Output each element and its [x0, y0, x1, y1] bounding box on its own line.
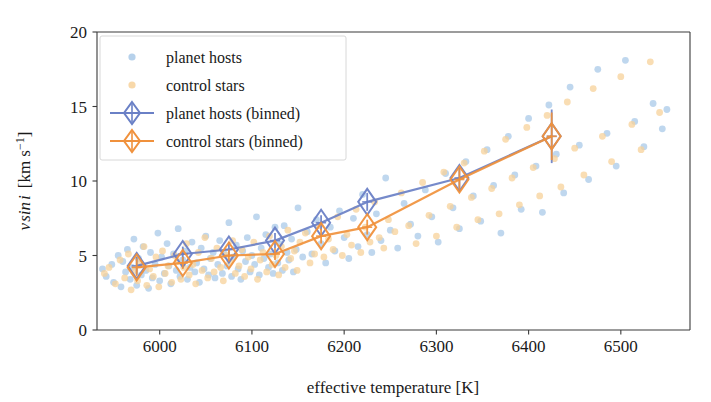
scatter-point: [285, 227, 292, 234]
scatter-point: [192, 280, 199, 287]
scatter-point: [498, 230, 505, 237]
scatter-point: [106, 264, 113, 271]
scatter-point: [617, 73, 624, 80]
scatter-point: [217, 264, 224, 271]
scatter-point: [581, 172, 588, 179]
scatter-point: [419, 179, 426, 186]
scatter-point: [143, 282, 150, 289]
scatter-point: [373, 210, 380, 217]
scatter-point: [435, 239, 442, 246]
scatter-point: [219, 270, 226, 277]
scatter-point: [461, 160, 468, 167]
scatter-point: [413, 240, 420, 247]
scatter-point: [236, 263, 243, 270]
scatter-point: [121, 275, 128, 282]
scatter-point: [241, 273, 248, 280]
scatter-point: [426, 212, 433, 219]
scatter-point: [275, 272, 282, 279]
scatter-point: [629, 121, 636, 128]
y-axis-unit-close: ]: [15, 132, 34, 138]
scatter-point: [311, 251, 318, 258]
scatter-point: [558, 184, 565, 191]
scatter-point: [355, 243, 362, 250]
y-tick-label: 5: [79, 247, 88, 266]
scatter-point: [350, 215, 357, 222]
scatter-point: [368, 249, 375, 256]
scatter-point: [496, 210, 503, 217]
scatter-point: [147, 249, 154, 256]
scatter-point: [101, 270, 108, 277]
scatter-point: [415, 233, 422, 240]
scatter-point: [248, 266, 255, 273]
scatter-point: [405, 222, 412, 229]
scatter-point: [117, 257, 124, 264]
legend-label: control stars: [166, 77, 245, 94]
y-tick-label: 20: [70, 23, 87, 42]
x-tick-label: 6000: [143, 337, 177, 356]
scatter-point: [287, 255, 294, 262]
scatter-point: [159, 248, 166, 255]
scatter-point: [226, 219, 233, 226]
scatter-point: [156, 277, 163, 284]
scatter-point: [339, 252, 346, 259]
scatter-point: [211, 269, 218, 276]
legend-layer: planet hostscontrol starsplanet hosts (b…: [100, 36, 346, 160]
y-axis-unit-open: [km s: [15, 150, 34, 188]
scatter-point: [560, 190, 567, 197]
y-tick-label: 15: [70, 98, 87, 117]
scatter-point: [295, 204, 302, 211]
scatter-point: [468, 194, 475, 201]
chart-svg: 60006100620063006400650005101520 planet …: [0, 0, 711, 402]
scatter-point: [164, 240, 171, 247]
scatter-point: [112, 280, 119, 287]
scatter-point: [394, 245, 401, 252]
legend-dot-marker: [128, 53, 135, 60]
scatter-point: [475, 216, 482, 223]
scatter-point: [220, 277, 227, 284]
scatter-point: [263, 269, 270, 276]
legend-label: planet hosts: [166, 49, 242, 67]
scatter-point: [155, 230, 162, 237]
scatter-point: [523, 124, 530, 131]
scatter-point: [216, 237, 223, 244]
x-tick-label: 6500: [604, 337, 638, 356]
scatter-point: [204, 275, 211, 282]
scatter-point: [330, 246, 337, 253]
scatter-point: [254, 276, 261, 283]
scatter-point: [155, 283, 162, 290]
scatter-point: [433, 233, 440, 240]
scatter-point: [128, 286, 135, 293]
x-tick-label: 6200: [327, 337, 361, 356]
legend-label: planet hosts (binned): [166, 105, 300, 123]
scatter-point: [141, 243, 148, 250]
figure-container: 60006100620063006400650005101520 planet …: [0, 0, 711, 402]
scatter-point: [525, 115, 532, 122]
scatter-point: [539, 209, 546, 216]
scatter-point: [175, 225, 182, 232]
scatter-point: [567, 84, 574, 91]
scatter-point: [516, 201, 523, 208]
scatter-point: [253, 213, 260, 220]
scatter-point: [202, 234, 209, 241]
scatter-point: [664, 106, 671, 113]
scatter-point: [622, 57, 629, 64]
scatter-point: [502, 136, 509, 143]
scatter-point: [380, 245, 387, 252]
scatter-point: [186, 272, 193, 279]
scatter-point: [564, 99, 571, 106]
scatter-point: [594, 66, 601, 73]
scatter-point: [481, 148, 488, 155]
scatter-point: [376, 234, 383, 241]
scatter-point: [530, 164, 537, 171]
x-tick-label: 6300: [419, 337, 453, 356]
scatter-point: [307, 260, 314, 267]
y-tick-label: 0: [79, 321, 88, 340]
scatter-point: [608, 158, 615, 165]
scatter-point: [294, 267, 301, 274]
scatter-point: [131, 236, 138, 243]
scatter-point: [571, 145, 578, 152]
scatter-point: [282, 264, 289, 271]
scatter-point: [447, 203, 454, 210]
scatter-point: [357, 249, 364, 256]
legend-dot-marker: [128, 81, 135, 88]
